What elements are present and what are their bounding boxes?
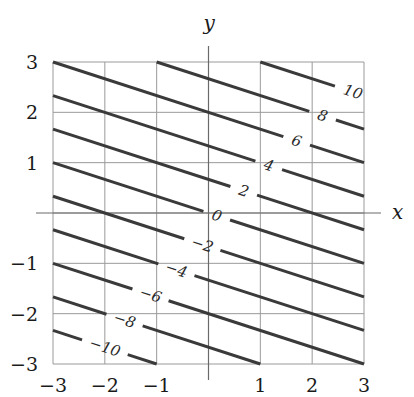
y-tick-label: 3 <box>26 51 38 73</box>
x-tick-label: 1 <box>254 374 266 396</box>
contour-level-label: 10 <box>341 80 365 103</box>
contour-line <box>143 326 261 364</box>
contour-line <box>260 62 335 86</box>
x-tick-label: 3 <box>358 374 370 396</box>
contour-line <box>53 263 132 289</box>
x-tick-label: −3 <box>39 374 67 396</box>
contour-line <box>53 96 255 162</box>
contour-level-label: −10 <box>87 334 123 361</box>
contour-line <box>230 220 364 263</box>
x-tick-label: −2 <box>91 374 119 396</box>
contour-line <box>336 120 364 129</box>
contour-level-label: −6 <box>137 283 164 307</box>
contour-line <box>169 301 364 364</box>
contour-line <box>53 230 158 264</box>
contour-line <box>53 196 184 238</box>
x-tick-label: −1 <box>143 374 171 396</box>
contour-level-label: 6 <box>289 131 304 151</box>
contour-line <box>282 170 364 197</box>
contour-line <box>53 297 107 314</box>
y-tick-label: −2 <box>10 303 38 325</box>
y-tick-label: 1 <box>26 152 38 174</box>
contour-level-label: 0 <box>209 206 224 226</box>
contour-level-label: 4 <box>260 155 276 175</box>
contour-level-label: −8 <box>111 308 138 332</box>
contour-level-label: −2 <box>189 233 216 257</box>
contour-line <box>194 276 364 331</box>
contour-plot: x y −3−2−1123−3−2−1123 −10−8−6−4−2024681… <box>0 0 414 397</box>
contour-line <box>53 62 283 137</box>
contour-line <box>53 129 230 186</box>
y-tick-label: −3 <box>10 353 38 375</box>
y-tick-label: −1 <box>10 252 38 274</box>
contour-line <box>53 330 82 339</box>
contour-line <box>310 145 364 162</box>
x-axis-label: x <box>392 200 403 224</box>
tick-labels: −3−2−1123−3−2−1123 <box>10 51 370 396</box>
contour-level-label: 2 <box>235 181 251 201</box>
y-tick-label: 2 <box>26 101 38 123</box>
x-tick-label: 2 <box>306 374 318 396</box>
y-axis-label: y <box>203 11 216 35</box>
contour-level-label: 8 <box>315 106 330 126</box>
contour-level-label: −4 <box>163 258 190 282</box>
contour-line <box>128 355 157 364</box>
